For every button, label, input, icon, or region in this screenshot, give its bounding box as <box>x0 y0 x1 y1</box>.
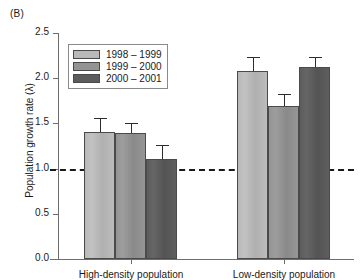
y-tick-mark <box>53 33 58 34</box>
bar <box>268 106 299 259</box>
y-tick-label: 1.5 <box>35 116 49 127</box>
error-bar-line <box>253 57 254 71</box>
y-tick-label: 2.5 <box>35 26 49 37</box>
error-bar-cap <box>278 94 291 95</box>
y-tick-label: 2.0 <box>35 71 49 82</box>
legend-label: 1999 – 2000 <box>106 61 162 72</box>
x-tick-mark <box>284 259 285 264</box>
panel-label: (B) <box>10 8 24 19</box>
legend-item: 1999 – 2000 <box>73 61 162 72</box>
legend-swatch <box>73 62 100 71</box>
legend-label: 1998 – 1999 <box>106 49 162 60</box>
y-tick-mark <box>53 123 58 124</box>
y-tick-mark <box>53 259 58 260</box>
legend-item: 1998 – 1999 <box>73 49 162 60</box>
error-bar-cap <box>125 123 138 124</box>
error-bar-cap <box>247 57 260 58</box>
y-tick-label: 0.0 <box>35 252 49 263</box>
figure-panel-b: (B) Population growth rate (λ) 0.00.51.0… <box>0 0 361 280</box>
bar <box>299 67 330 259</box>
y-tick-mark <box>53 214 58 215</box>
error-bar-line <box>315 57 316 68</box>
error-bar-cap <box>156 145 169 146</box>
bar <box>115 133 146 259</box>
error-bar-line <box>284 94 285 106</box>
bar-group <box>237 33 330 259</box>
x-axis-line <box>50 259 354 260</box>
x-tick-mark <box>131 259 132 264</box>
x-tick-label: Low-density population <box>233 269 335 280</box>
x-tick-label: High-density population <box>79 269 184 280</box>
error-bar-cap <box>94 118 107 119</box>
bar <box>237 71 268 259</box>
error-bar-line <box>131 123 132 133</box>
y-axis-line <box>58 33 59 259</box>
y-tick-mark <box>53 78 58 79</box>
y-tick-label: 1.0 <box>35 162 49 173</box>
legend-item: 2000 – 2001 <box>73 73 162 84</box>
error-bar-cap <box>309 57 322 58</box>
legend: 1998 – 19991999 – 20002000 – 2001 <box>68 44 168 89</box>
legend-swatch <box>73 50 100 59</box>
y-tick-label: 0.5 <box>35 207 49 218</box>
error-bar-line <box>162 145 163 159</box>
error-bar-line <box>100 118 101 132</box>
bar <box>84 132 115 259</box>
y-axis-title: Population growth rate (λ) <box>24 46 35 236</box>
bar <box>146 159 177 259</box>
legend-swatch <box>73 74 100 83</box>
legend-label: 2000 – 2001 <box>106 73 162 84</box>
